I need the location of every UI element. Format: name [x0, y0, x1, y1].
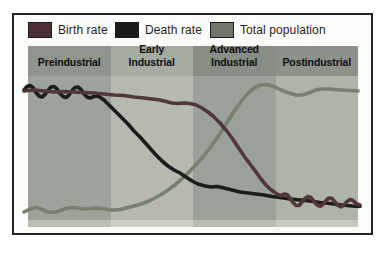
stage-bottom-strip — [111, 220, 194, 227]
stage-column-preindustrial: Preindustrial — [28, 46, 111, 227]
stage-bottom-strip — [28, 220, 111, 227]
stage-bottom-strip — [276, 220, 359, 227]
legend-item-total-population: Total population — [210, 21, 326, 38]
stage-body — [111, 76, 194, 220]
stage-header-advanced-industrial: Advanced Industrial — [193, 46, 276, 76]
stage-column-postindustrial: Postindustrial — [276, 46, 359, 227]
stage-label-line2: Industrial — [129, 56, 175, 69]
stage-bottom-strip — [193, 220, 276, 227]
stage-label-line1: Early — [139, 43, 164, 56]
death-rate-label: Death rate — [145, 23, 202, 37]
death-rate-swatch — [115, 22, 139, 38]
stage-label-line2: Industrial — [211, 56, 257, 69]
birth-rate-label: Birth rate — [58, 23, 108, 37]
stage-columns: Preindustrial Early Industrial Advanced … — [28, 46, 358, 227]
stage-label-line1: Advanced — [210, 43, 259, 56]
legend-item-death-rate: Death rate — [115, 21, 202, 38]
stage-label-line2: Preindustrial — [38, 56, 101, 69]
birth-rate-swatch — [28, 22, 52, 38]
stage-header-preindustrial: Preindustrial — [28, 46, 111, 76]
stage-body — [28, 76, 111, 220]
stage-label-line2: Postindustrial — [282, 56, 351, 69]
stage-header-postindustrial: Postindustrial — [276, 46, 359, 76]
total-population-swatch — [210, 22, 234, 38]
stage-column-early-industrial: Early Industrial — [111, 46, 194, 227]
legend-item-birth-rate: Birth rate — [28, 21, 108, 38]
demographic-transition-figure: Birth rate Death rate Total population P… — [0, 0, 391, 253]
stage-header-early-industrial: Early Industrial — [111, 46, 194, 76]
total-population-label: Total population — [240, 23, 326, 37]
stage-body — [276, 76, 359, 220]
stage-body — [193, 76, 276, 220]
stage-column-advanced-industrial: Advanced Industrial — [193, 46, 276, 227]
